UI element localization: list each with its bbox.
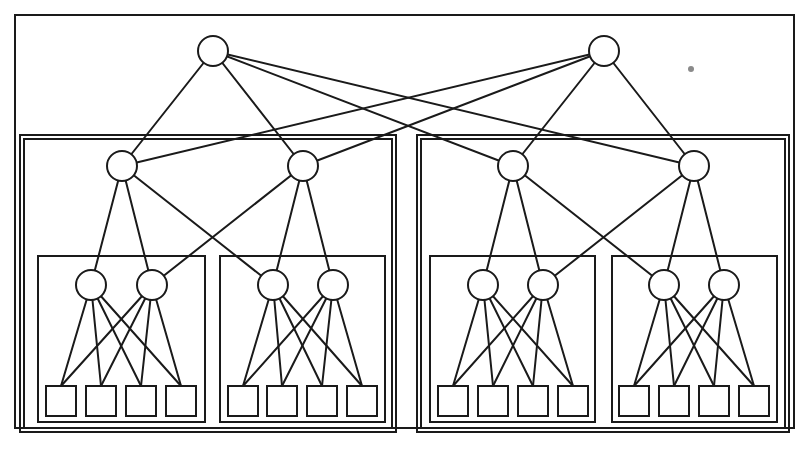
leaf-node-p2 [126, 386, 156, 416]
link-m3-l5 [543, 166, 694, 285]
link-r1-m3 [604, 51, 694, 166]
leaf-node-p8 [438, 386, 468, 416]
link-m1-l2 [273, 166, 303, 285]
speck-artifact [688, 66, 694, 72]
switch-node-l0 [76, 270, 106, 300]
link-r0-m0 [122, 51, 213, 166]
switch-node-l4 [468, 270, 498, 300]
link-m3-l7 [694, 166, 724, 285]
link-l3-p4 [243, 285, 333, 386]
leaf-node-p1 [86, 386, 116, 416]
switch-node-l5 [528, 270, 558, 300]
switch-node-m2 [498, 151, 528, 181]
leaf-node-p15 [739, 386, 769, 416]
switch-node-l3 [318, 270, 348, 300]
link-m2-l4 [483, 166, 513, 285]
link-r1-m0 [122, 51, 604, 166]
link-m0-l0 [91, 166, 122, 285]
switch-node-l6 [649, 270, 679, 300]
link-m2-l5 [513, 166, 543, 285]
leaf-node-p10 [518, 386, 548, 416]
switch-node-l7 [709, 270, 739, 300]
leaf-nodes [46, 386, 769, 416]
leaf-node-p4 [228, 386, 258, 416]
leaf-node-p13 [659, 386, 689, 416]
switch-node-m0 [107, 151, 137, 181]
leaf-node-p6 [307, 386, 337, 416]
links [61, 51, 754, 386]
leaf-node-p5 [267, 386, 297, 416]
link-l6-p15 [664, 285, 754, 386]
diagram-canvas [0, 0, 806, 456]
fat-tree-diagram [0, 0, 806, 456]
leaf-node-p14 [699, 386, 729, 416]
link-l1-p0 [61, 285, 152, 386]
artifacts [688, 66, 694, 72]
link-l2-p7 [273, 285, 362, 386]
link-m1-l3 [303, 166, 333, 285]
leaf-node-p3 [166, 386, 196, 416]
link-m3-l6 [664, 166, 694, 285]
leaf-node-p7 [347, 386, 377, 416]
switch-node-l2 [258, 270, 288, 300]
leaf-node-p9 [478, 386, 508, 416]
switch-node-r1 [589, 36, 619, 66]
link-m0-l2 [122, 166, 273, 285]
link-l1-p1 [101, 285, 152, 386]
link-l3-p5 [282, 285, 333, 386]
switch-node-m1 [288, 151, 318, 181]
switch-node-r0 [198, 36, 228, 66]
link-m2-l6 [513, 166, 664, 285]
switch-node-m3 [679, 151, 709, 181]
switch-nodes [76, 36, 739, 300]
link-l4-p11 [483, 285, 573, 386]
link-l5-p8 [453, 285, 543, 386]
link-l7-p12 [634, 285, 724, 386]
switch-node-l1 [137, 270, 167, 300]
link-m1-l1 [152, 166, 303, 285]
leaf-node-p0 [46, 386, 76, 416]
leaf-node-p11 [558, 386, 588, 416]
link-m0-l1 [122, 166, 152, 285]
leaf-node-p12 [619, 386, 649, 416]
